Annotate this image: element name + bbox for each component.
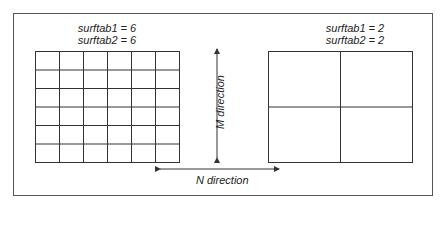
right-mesh-grid bbox=[269, 52, 413, 163]
m-direction-label: M direction bbox=[214, 75, 226, 129]
left-mesh-grid bbox=[36, 52, 180, 163]
n-direction-label: N direction bbox=[196, 174, 249, 186]
